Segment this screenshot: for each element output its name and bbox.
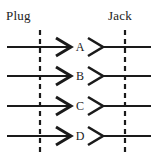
pin-letter-b: B: [73, 70, 87, 82]
jack-contact-d: [88, 127, 103, 145]
pin-letter-a: A: [73, 41, 87, 53]
jack-contact-b: [88, 67, 103, 85]
connector-diagram-screen: Plug Jack ABCD: [0, 0, 157, 156]
jack-contact-a: [88, 38, 103, 56]
pin-letter-d: D: [73, 130, 87, 142]
jack-contact-c: [88, 97, 103, 115]
pin-letter-c: C: [73, 100, 87, 112]
